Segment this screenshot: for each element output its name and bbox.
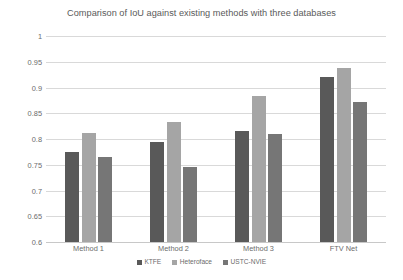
gridline: [46, 191, 386, 192]
legend-item: KTFE: [137, 259, 161, 266]
y-axis-tick-label: 0.85: [2, 109, 42, 118]
bar: [183, 167, 197, 242]
bar: [320, 77, 334, 242]
bar: [82, 133, 96, 242]
x-axis: Method 1Method 2Method 3FTV Net: [46, 244, 386, 258]
y-axis-tick-label: 0.6: [2, 238, 42, 247]
y-axis-tick-label: 0.65: [2, 212, 42, 221]
bar: [353, 102, 367, 242]
y-axis-tick-label: 0.75: [2, 160, 42, 169]
y-axis-tick-label: 0.95: [2, 57, 42, 66]
legend-item: USTC-NVIE: [223, 259, 266, 266]
legend-swatch-icon: [137, 260, 142, 265]
bar: [167, 122, 181, 242]
x-axis-tick-label: Method 2: [158, 244, 189, 253]
y-axis-tick-label: 0.7: [2, 186, 42, 195]
x-axis-tick-label: FTV Net: [330, 244, 358, 253]
y-axis-tick-label: 1: [2, 32, 42, 41]
y-axis-tick-label: 0.9: [2, 83, 42, 92]
gridline: [46, 36, 386, 37]
legend-label: USTC-NVIE: [231, 259, 267, 266]
gridline: [46, 113, 386, 114]
y-axis-tick-label: 0.8: [2, 135, 42, 144]
bar: [235, 131, 249, 242]
gridline: [46, 216, 386, 217]
plot-area: [46, 36, 386, 242]
legend-label: KTFE: [144, 259, 161, 266]
legend-swatch-icon: [172, 260, 177, 265]
gridline: [46, 242, 386, 243]
legend-label: Heteroface: [180, 259, 212, 266]
x-axis-tick-label: Method 3: [243, 244, 274, 253]
chart-title: Comparison of IoU against existing metho…: [0, 8, 403, 18]
bar: [65, 152, 79, 242]
legend-item: Heteroface: [172, 259, 212, 266]
gridline: [46, 139, 386, 140]
gridline: [46, 62, 386, 63]
bar: [252, 96, 266, 242]
bar: [337, 68, 351, 242]
gridline: [46, 88, 386, 89]
chart-legend: KTFEHeterofaceUSTC-NVIE: [0, 259, 403, 266]
bar-chart: Comparison of IoU against existing metho…: [0, 0, 403, 280]
bar: [150, 142, 164, 242]
bar: [98, 157, 112, 242]
x-axis-tick-label: Method 1: [73, 244, 104, 253]
gridline: [46, 165, 386, 166]
legend-swatch-icon: [223, 260, 228, 265]
bar: [268, 134, 282, 242]
y-axis: 0.60.650.70.750.80.850.90.951: [0, 36, 42, 242]
